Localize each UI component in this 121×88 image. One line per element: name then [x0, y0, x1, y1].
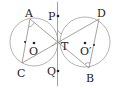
label-a: A	[24, 7, 34, 20]
midpoint-db	[93, 44, 95, 46]
label-o-prime: O′	[80, 45, 92, 58]
midpoint-ac	[24, 41, 26, 43]
label-p: P	[48, 10, 56, 23]
label-t: T	[61, 40, 69, 53]
angle-mark-b	[85, 63, 90, 64]
line-ab	[30, 19, 89, 68]
center-o-prime	[84, 42, 87, 45]
label-q: Q	[47, 65, 56, 78]
segment-db	[89, 19, 99, 68]
center-o	[33, 42, 36, 45]
label-c: C	[17, 67, 25, 80]
angle-mark-t-right	[58, 31, 61, 34]
geometry-diagram: A C P Q T D B O O′	[0, 0, 121, 88]
point-p	[57, 15, 60, 18]
label-o: O	[29, 45, 38, 58]
label-b: B	[86, 72, 94, 85]
point-q	[57, 70, 60, 73]
label-d: D	[97, 7, 106, 20]
